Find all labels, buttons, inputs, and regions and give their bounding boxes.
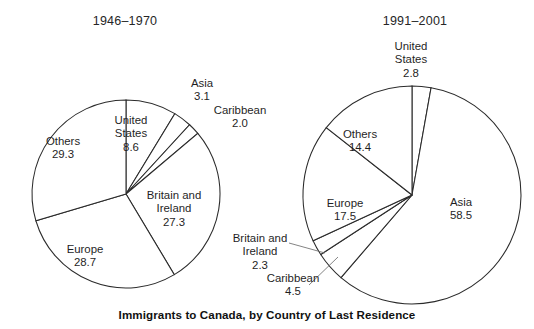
slice-label-others: Others14.4 xyxy=(334,128,386,155)
slice-label-value: 2.8 xyxy=(382,67,440,80)
slice-label-name: Europe xyxy=(319,197,371,210)
slice-label-value: 17.5 xyxy=(319,210,371,223)
slice-label-others: Others29.3 xyxy=(36,135,90,162)
slice-label-value: 14.4 xyxy=(334,141,386,154)
slice-label-britain-and-ireland: Britain and Ireland27.3 xyxy=(143,189,205,229)
slice-label-name: Britain and Ireland xyxy=(231,232,289,259)
pie-chart-figure: 1946–1970 1991–2001 United States8.6Asia… xyxy=(0,0,534,329)
slice-label-value: 58.5 xyxy=(440,209,482,222)
slice-label-caribbean: Caribbean2.0 xyxy=(209,104,271,131)
slice-label-name: Britain and Ireland xyxy=(143,189,205,216)
slice-label-europe: Europe28.7 xyxy=(59,243,111,270)
slice-label-name: Asia xyxy=(181,77,223,90)
slice-label-value: 28.7 xyxy=(59,256,111,269)
slice-label-name: Others xyxy=(36,135,90,148)
slice-label-value: 2.3 xyxy=(231,259,289,272)
slice-label-name: United States xyxy=(382,40,440,67)
slice-label-name: United States xyxy=(104,114,158,141)
right-pie-chart xyxy=(303,86,521,304)
slice-label-united-states: United States8.6 xyxy=(104,114,158,154)
slice-label-caribbean: Caribbean4.5 xyxy=(262,272,324,299)
figure-caption: Immigrants to Canada, by Country of Last… xyxy=(0,308,534,321)
slice-label-name: Caribbean xyxy=(262,272,324,285)
slice-label-name: Caribbean xyxy=(209,104,271,117)
slice-label-europe: Europe17.5 xyxy=(319,197,371,224)
slice-label-name: Others xyxy=(334,128,386,141)
slice-label-asia: Asia58.5 xyxy=(440,196,482,223)
slice-label-united-states: United States2.8 xyxy=(382,40,440,80)
slice-label-value: 29.3 xyxy=(36,148,90,161)
slice-label-value: 27.3 xyxy=(143,216,205,229)
slice-label-value: 4.5 xyxy=(262,285,324,298)
slice-label-name: Europe xyxy=(59,243,111,256)
slice-label-value: 3.1 xyxy=(181,90,223,103)
slice-label-name: Asia xyxy=(440,196,482,209)
slice-label-asia: Asia3.1 xyxy=(181,77,223,104)
slice-label-value: 8.6 xyxy=(104,141,158,154)
slice-label-value: 2.0 xyxy=(209,117,271,130)
slice-label-britain-and-ireland: Britain and Ireland2.3 xyxy=(231,232,289,272)
